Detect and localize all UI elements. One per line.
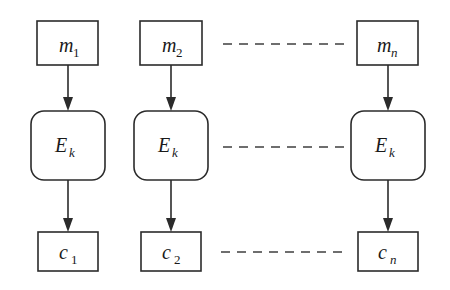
message-block-2-subscript: 2 [176,45,183,60]
diagram-canvas: m 1 E k c 1 m 2 [0,0,450,290]
column-n: m n E k c n [351,21,425,271]
ciphertext-block-n-subscript: n [390,252,397,267]
cipher-function-1-subscript: k [69,145,75,160]
ciphertext-block-2-subscript: 2 [174,252,181,267]
arrowhead-message-n-to-cipher-n [383,97,393,111]
arrowhead-cipher-1-to-ciphertext-1 [63,218,73,232]
cipher-function-2[interactable] [134,111,208,180]
message-block-1-label: m [59,34,73,56]
cipher-function-1-label: E [54,134,67,156]
cipher-function-n-subscript: k [389,145,395,160]
ciphertext-block-2[interactable] [141,232,201,271]
ciphertext-block-1-label: c [59,241,68,263]
arrowhead-message-1-to-cipher-1 [63,97,73,111]
cipher-function-n[interactable] [351,111,425,180]
message-block-n-label: m [377,34,391,56]
ciphertext-block-n-label: c [378,241,387,263]
message-block-n-subscript: n [391,45,398,60]
arrowhead-cipher-2-to-ciphertext-2 [166,218,176,232]
arrowhead-cipher-n-to-ciphertext-n [383,218,393,232]
message-block-2-label: m [162,34,176,56]
arrowhead-message-2-to-cipher-2 [166,97,176,111]
column-2: m 2 E k c 2 [134,21,208,271]
ciphertext-block-2-label: c [162,241,171,263]
ciphertext-block-1[interactable] [38,232,98,271]
cipher-function-1[interactable] [31,111,105,180]
cipher-function-2-label: E [157,134,170,156]
ciphertext-block-n[interactable] [358,232,418,271]
cipher-function-2-subscript: k [172,145,178,160]
ciphertext-block-1-subscript: 1 [71,252,78,267]
column-1: m 1 E k c 1 [31,21,105,271]
message-block-1-subscript: 1 [73,45,80,60]
cipher-function-n-label: E [374,134,387,156]
block-diagram: m 1 E k c 1 m 2 [0,0,450,290]
